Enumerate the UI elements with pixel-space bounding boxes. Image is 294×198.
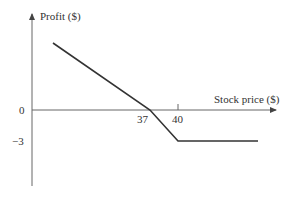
x-axis-label: Stock price ($) [214, 93, 280, 106]
y-tick-label-neg3: −3 [12, 135, 24, 147]
profit-chart: Profit ($) Stock price ($) 0 −3 37 40 [0, 0, 294, 198]
y-tick-label-0: 0 [19, 104, 25, 116]
y-axis-label: Profit ($) [40, 10, 81, 23]
x-tick-label-37: 37 [137, 113, 149, 125]
x-tick-label-40: 40 [172, 113, 184, 125]
profit-line [53, 43, 258, 141]
